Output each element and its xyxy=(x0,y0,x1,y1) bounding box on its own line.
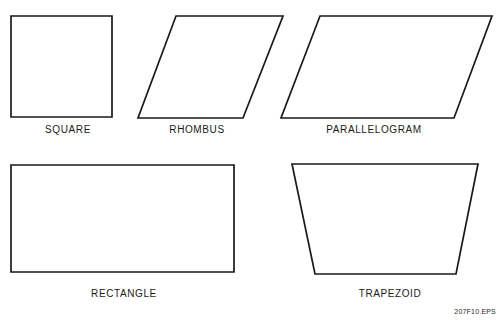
parallelogram-label: PARALLELOGRAM xyxy=(326,124,421,135)
parallelogram-shape xyxy=(281,16,492,118)
rectangle-shape xyxy=(11,165,234,272)
trapezoid-shape xyxy=(292,164,478,274)
trapezoid-label: TRAPEZOID xyxy=(359,288,422,299)
figure-id-label: 207F10.EPS xyxy=(454,308,496,315)
square-label: SQUARE xyxy=(45,124,91,135)
rhombus-label: RHOMBUS xyxy=(169,124,224,135)
diagram-page: SQUARE RHOMBUS PARALLELOGRAM RECTANGLE T… xyxy=(0,0,501,320)
rectangle-label: RECTANGLE xyxy=(91,288,157,299)
shapes-canvas xyxy=(0,0,501,320)
square-shape xyxy=(11,16,112,117)
rhombus-shape xyxy=(138,16,283,118)
